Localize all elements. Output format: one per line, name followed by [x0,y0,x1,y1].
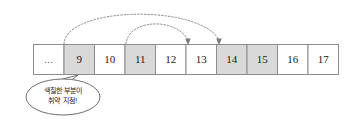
cell-label: 14 [226,53,238,65]
array-row: ... 9 10 11 12 [34,45,339,75]
array-cell[interactable]: 15 [247,45,278,75]
cell-label: 17 [318,53,330,65]
cell-label: 9 [77,53,83,65]
array-cell[interactable]: ... [34,45,65,75]
arc-11-to-13 [126,24,188,44]
cell-label: 13 [196,53,208,65]
array-cell[interactable]: 13 [186,45,217,75]
callout-line-2: 취약 지점! [48,96,77,105]
array-cell[interactable]: 10 [95,45,126,75]
cell-label: 10 [104,53,116,65]
callout-line-1: 색칠한 부분이 [44,86,82,95]
arc-9-to-14 [64,14,219,44]
cell-label: 16 [287,53,299,65]
diagram-canvas: ... 9 10 11 12 [0,0,351,124]
array-cell[interactable]: 9 [64,45,95,75]
cell-label: ... [44,54,53,65]
cell-label: 11 [135,53,146,65]
array-cell[interactable]: 17 [308,45,339,75]
cell-label: 12 [165,53,176,65]
array-cell[interactable]: 16 [278,45,309,75]
vulnerability-callout: 색칠한 부분이 취약 지점! [26,75,100,115]
array-diagram: ... 9 10 11 12 [0,0,351,124]
array-cell[interactable]: 12 [156,45,187,75]
array-cell[interactable]: 14 [217,45,248,75]
array-cell[interactable]: 11 [125,45,156,75]
arc-group [64,14,222,45]
cell-label: 15 [257,53,269,65]
